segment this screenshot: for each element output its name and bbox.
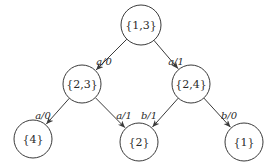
state-node: {2,4} <box>172 65 210 103</box>
edge-label: a/0 <box>35 110 51 121</box>
edge-label: b/1 <box>141 110 157 121</box>
node-label: {4} <box>23 133 44 146</box>
node-label: {1,3} <box>125 19 157 32</box>
node-label: {2} <box>129 136 150 149</box>
edge-label: b/0 <box>221 110 238 121</box>
state-tree-diagram: a/0a/1a/0a/1b/1b/0 {1,3}{2,3}{2,4}{4}{2}… <box>0 0 277 168</box>
edge-label: a/1 <box>116 110 132 121</box>
state-node: {2} <box>120 123 158 161</box>
edge-label: a/1 <box>168 56 184 67</box>
node-label: {2,4} <box>175 78 207 91</box>
node-label: {1} <box>234 136 255 149</box>
state-node: {4} <box>14 120 52 158</box>
state-node: {1} <box>225 123 263 161</box>
state-node: {2,3} <box>63 65 101 103</box>
node-label: {2,3} <box>66 78 98 91</box>
nodes-group: {1,3}{2,3}{2,4}{4}{2}{1} <box>14 5 263 161</box>
state-node: {1,3} <box>121 5 161 45</box>
edge-label: a/0 <box>96 56 112 67</box>
